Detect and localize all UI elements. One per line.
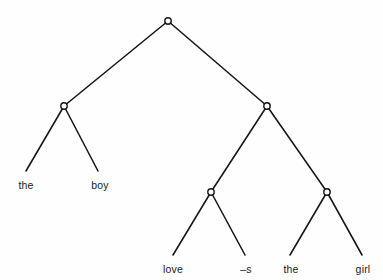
- tree-node-root[interactable]: [165, 18, 171, 24]
- tree-node-left-np[interactable]: [61, 103, 67, 109]
- tree-leaf-leaf-girl: girl: [356, 264, 371, 275]
- tree-branch-root-to-right-vp: [168, 21, 267, 106]
- tree-svg-canvas: [0, 0, 383, 280]
- tree-node-object-np[interactable]: [324, 189, 330, 195]
- tree-leaf-leaf-love: love: [163, 264, 183, 275]
- tree-branch-object-np-to-girl: [327, 192, 362, 255]
- tree-branch-verb-node-to-love: [173, 192, 211, 255]
- tree-branch-object-np-to-the: [290, 192, 327, 255]
- tree-branch-root-to-left-np: [64, 21, 168, 106]
- tree-leaf-leaf-the-1: the: [18, 180, 33, 191]
- tree-branch-left-np-to-boy: [64, 106, 98, 171]
- tree-branch-verb-node-to-suffix: [211, 192, 245, 255]
- tree-leaf-leaf-suffix: –s: [240, 264, 252, 275]
- tree-branch-left-np-to-the: [26, 106, 64, 171]
- tree-node-right-vp[interactable]: [264, 103, 270, 109]
- tree-branch-right-vp-to-object-np: [267, 106, 327, 192]
- syntax-tree-figure: theboylove–sthegirl: [0, 0, 383, 280]
- tree-leaf-leaf-the-2: the: [283, 264, 298, 275]
- tree-leaf-leaf-boy: boy: [91, 180, 109, 191]
- tree-branch-right-vp-to-verb-node: [211, 106, 267, 192]
- tree-edges-group: [26, 21, 362, 255]
- tree-node-verb-node[interactable]: [208, 189, 214, 195]
